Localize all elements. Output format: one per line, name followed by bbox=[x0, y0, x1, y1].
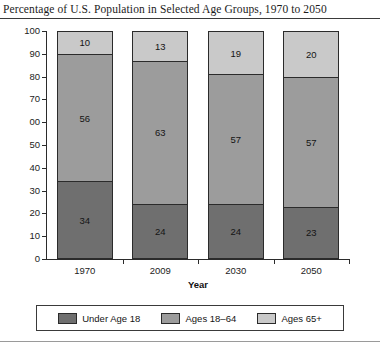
y-axis-label: 50 bbox=[29, 140, 40, 150]
x-axis-label: 1970 bbox=[74, 266, 95, 276]
bar-segment[interactable]: 56 bbox=[57, 54, 113, 182]
y-axis-tick bbox=[42, 77, 47, 78]
bar-column[interactable]: 136324 bbox=[132, 31, 188, 259]
y-axis-tick bbox=[42, 54, 47, 55]
legend-label: Under Age 18 bbox=[82, 313, 140, 324]
legend-swatch bbox=[257, 313, 276, 324]
y-axis-tick bbox=[42, 145, 47, 146]
x-axis-tick bbox=[123, 259, 124, 264]
x-axis-tick bbox=[349, 259, 350, 264]
y-axis-tick bbox=[42, 191, 47, 192]
y-axis-label: 20 bbox=[29, 209, 40, 219]
bar-column[interactable]: 195724 bbox=[208, 31, 264, 259]
y-axis-label: 100 bbox=[24, 26, 40, 36]
y-axis-label: 80 bbox=[29, 72, 40, 82]
y-axis-label: 30 bbox=[29, 186, 40, 196]
bar-segment[interactable]: 57 bbox=[208, 74, 264, 204]
bar-segment[interactable]: 20 bbox=[283, 31, 339, 77]
y-axis-tick bbox=[42, 236, 47, 237]
bar-segment[interactable]: 10 bbox=[57, 31, 113, 54]
y-axis-label: 00 bbox=[29, 117, 40, 127]
legend-swatch bbox=[161, 313, 180, 324]
y-axis-tick bbox=[42, 213, 47, 214]
legend-item[interactable]: Ages 65+ bbox=[257, 313, 321, 324]
y-axis-label: 0 bbox=[35, 254, 40, 264]
legend-label: Ages 18–64 bbox=[185, 313, 236, 324]
bar-segment[interactable]: 57 bbox=[283, 77, 339, 207]
bar-segment[interactable]: 19 bbox=[208, 31, 264, 74]
y-axis-label: 70 bbox=[29, 95, 40, 105]
legend-item[interactable]: Ages 18–64 bbox=[161, 313, 236, 324]
y-axis-label: 10 bbox=[29, 231, 40, 241]
bar-segment[interactable]: 63 bbox=[132, 61, 188, 205]
x-axis-label: 2009 bbox=[150, 266, 171, 276]
bar-column[interactable]: 105634 bbox=[57, 31, 113, 259]
chart-legend: Under Age 18Ages 18–64Ages 65+ bbox=[36, 305, 344, 331]
y-axis-label: 40 bbox=[29, 163, 40, 173]
bar-segment[interactable]: 24 bbox=[208, 204, 264, 259]
y-axis-tick bbox=[42, 99, 47, 100]
x-axis-tick bbox=[198, 259, 199, 264]
bar-segment[interactable]: 24 bbox=[132, 204, 188, 259]
legend-swatch bbox=[58, 313, 77, 324]
bottom-divider bbox=[0, 341, 380, 342]
y-axis-tick bbox=[42, 31, 47, 32]
y-axis-tick bbox=[42, 122, 47, 123]
y-axis-label: 90 bbox=[29, 49, 40, 59]
plot-frame: 105634136324195724205723 Year 0102030405… bbox=[46, 31, 349, 260]
bar-column[interactable]: 205723 bbox=[283, 31, 339, 259]
bar-group: 105634136324195724205723 bbox=[47, 31, 349, 259]
bar-segment[interactable]: 23 bbox=[283, 207, 339, 259]
x-axis-label: 2030 bbox=[225, 266, 246, 276]
y-axis-tick bbox=[42, 168, 47, 169]
x-axis-label: 2050 bbox=[301, 266, 322, 276]
y-axis-tick bbox=[42, 259, 47, 260]
bar-segment[interactable]: 34 bbox=[57, 181, 113, 259]
x-axis-title: Year bbox=[188, 279, 208, 290]
chart-area: 105634136324195724205723 Year 0102030405… bbox=[0, 19, 380, 281]
chart-title: Percentage of U.S. Population in Selecte… bbox=[0, 0, 380, 16]
x-axis-tick bbox=[274, 259, 275, 264]
legend-label: Ages 65+ bbox=[281, 313, 321, 324]
bar-segment[interactable]: 13 bbox=[132, 31, 188, 61]
legend-item[interactable]: Under Age 18 bbox=[58, 313, 140, 324]
